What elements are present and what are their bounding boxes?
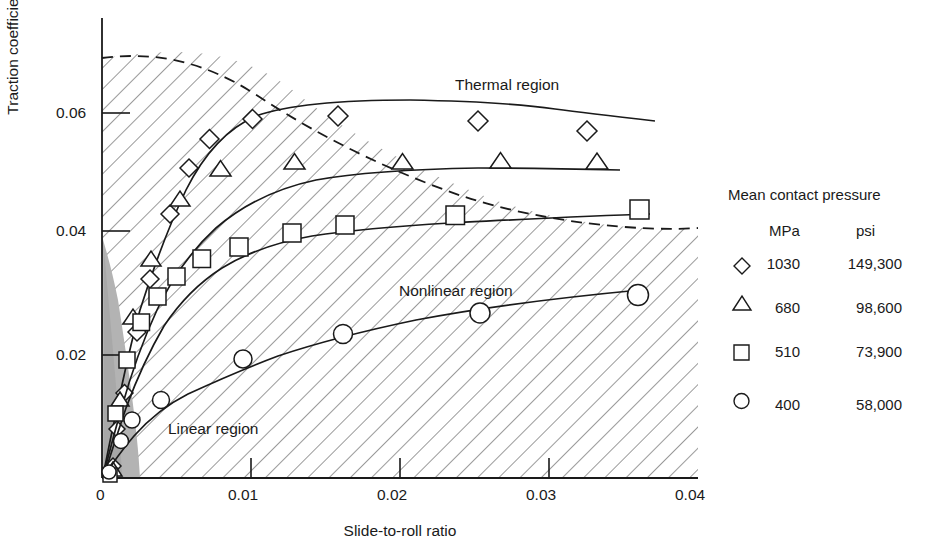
y-tick-0.06: 0.06 — [56, 104, 86, 122]
region-label-nonlinear: Nonlinear region — [399, 282, 513, 300]
x-tick-0.01: 0.01 — [228, 486, 258, 504]
legend-row-3-psi: 58,000 — [830, 396, 902, 413]
region-label-thermal: Thermal region — [455, 76, 559, 94]
legend-row-2-psi: 73,900 — [830, 343, 902, 360]
y-tick-0.04: 0.04 — [56, 222, 86, 240]
legend-header-psi: psi — [856, 222, 875, 239]
legend-row-3-mpa: 400 — [754, 396, 800, 413]
x-tick-0.04: 0.04 — [675, 486, 705, 504]
square-icon — [734, 345, 749, 360]
legend-title: Mean contact pressure — [728, 186, 881, 203]
triangle-icon — [733, 296, 751, 310]
diamond-icon — [734, 258, 750, 274]
x-tick-0.03: 0.03 — [526, 486, 556, 504]
circle-icon — [734, 394, 749, 409]
legend-row-2-mpa: 510 — [754, 343, 800, 360]
legend-row-0-psi: 149,300 — [830, 255, 902, 272]
legend-row-1-mpa: 680 — [754, 299, 800, 316]
legend-row-0-mpa: 1030 — [754, 255, 800, 272]
x-tick-0: 0 — [96, 486, 105, 504]
x-tick-0.02: 0.02 — [377, 486, 407, 504]
legend-header-mpa: MPa — [769, 222, 800, 239]
legend-row-1-psi: 98,600 — [830, 299, 902, 316]
y-axis-label: Traction coefficient — [4, 0, 22, 150]
x-axis-label: Slide-to-roll ratio — [250, 522, 550, 540]
region-label-linear: Linear region — [168, 420, 258, 438]
y-tick-0.02: 0.02 — [56, 346, 86, 364]
